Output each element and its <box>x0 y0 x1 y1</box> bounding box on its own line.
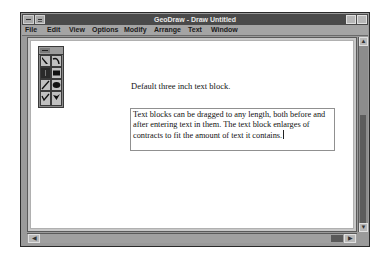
maximize-button[interactable] <box>357 15 367 24</box>
menu-window[interactable]: Window <box>211 25 238 35</box>
menu-arrange[interactable]: Arrange <box>154 25 181 35</box>
dash-icon <box>42 50 48 51</box>
freehand-tool[interactable] <box>40 91 51 106</box>
arrow-pointer-icon <box>41 56 50 66</box>
check-stroke-icon <box>41 92 50 102</box>
palette-close-button[interactable] <box>40 48 50 53</box>
pointer-tool[interactable] <box>40 55 51 67</box>
line-icon <box>41 80 50 90</box>
scroll-left-button[interactable]: ◀ <box>28 234 40 243</box>
tool-palette <box>38 46 64 108</box>
text-block-content: Text blocks can be dragged to any length… <box>133 110 325 140</box>
text-tool[interactable] <box>40 67 51 79</box>
vertical-scrollbar[interactable]: ▲ ▼ <box>358 37 368 232</box>
rotate-tool[interactable] <box>51 55 62 67</box>
horizontal-scrollbar[interactable]: ◀ ▶ <box>27 233 357 243</box>
polygon-tool[interactable] <box>51 91 62 106</box>
menu-options[interactable]: Options <box>92 25 118 35</box>
filled-rectangle-icon <box>52 68 61 78</box>
scroll-down-button[interactable]: ▼ <box>359 223 368 232</box>
menu-bar: File Edit View Options Modify Arrange Te… <box>22 25 368 36</box>
title-bar[interactable]: GeoDraw - Draw Untitled <box>22 14 368 25</box>
default-text-block[interactable]: Default three inch text block. <box>131 81 230 91</box>
menu-file[interactable]: File <box>25 25 37 35</box>
text-caret <box>283 130 284 139</box>
menu-modify[interactable]: Modify <box>124 25 147 35</box>
scroll-up-button[interactable]: ▲ <box>359 37 368 46</box>
scroll-right-button[interactable]: ▶ <box>344 234 356 243</box>
line-tool[interactable] <box>40 79 51 91</box>
vertical-scroll-thumb[interactable] <box>360 115 366 225</box>
window-title: GeoDraw - Draw Untitled <box>22 14 368 25</box>
ellipse-tool[interactable] <box>51 79 62 91</box>
menu-text[interactable]: Text <box>188 25 202 35</box>
text-cursor-icon <box>41 68 50 78</box>
minimize-button[interactable] <box>346 15 356 24</box>
curved-arrow-icon <box>52 56 61 66</box>
menu-view[interactable]: View <box>69 25 85 35</box>
menu-edit[interactable]: Edit <box>47 25 60 35</box>
rectangle-tool[interactable] <box>51 67 62 79</box>
filled-ellipse-icon <box>52 80 61 90</box>
filled-polygon-icon <box>52 92 61 102</box>
sized-text-block[interactable]: Text blocks can be dragged to any length… <box>130 108 335 151</box>
horizontal-scroll-thumb[interactable] <box>331 235 343 242</box>
palette-title-bar[interactable] <box>39 47 63 55</box>
